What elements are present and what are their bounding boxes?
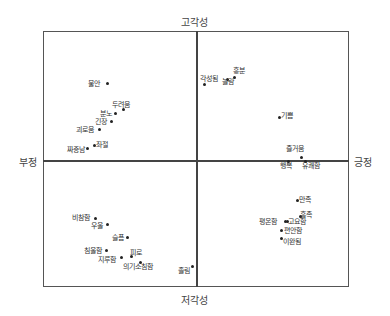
data-point-label: 긴장 [95, 118, 107, 126]
data-point-marker [98, 128, 101, 131]
data-point-label: 침울함 [84, 247, 102, 255]
data-point-label: 만족 [299, 196, 311, 204]
data-point-label: 편안함 [284, 227, 302, 235]
data-point-marker [105, 249, 108, 252]
data-point-label: 행복 [280, 162, 292, 170]
data-point-label: 졸림 [178, 267, 190, 275]
data-point-label: 의기소침함 [123, 263, 153, 271]
data-point-label: 고요함 [288, 218, 306, 226]
data-point-marker [114, 112, 117, 115]
data-point-marker [86, 147, 89, 150]
data-point-label: 좌절 [96, 141, 108, 149]
data-point-marker [106, 223, 109, 226]
data-point-label: 지루함 [98, 256, 116, 264]
data-point-label: 두려움 [112, 101, 130, 109]
data-point-marker [120, 256, 123, 259]
data-point-marker [106, 82, 109, 85]
data-point-label: 흥분 [233, 67, 245, 75]
data-point-marker [94, 217, 97, 220]
data-point-label: 이완됨 [283, 238, 301, 246]
data-point-label: 괴로움 [76, 126, 94, 134]
data-point-marker [300, 156, 303, 159]
axis-label-low-arousal: 저각성 [181, 292, 208, 307]
data-point-marker [126, 236, 129, 239]
data-point-marker [110, 120, 113, 123]
data-point-marker [191, 265, 194, 268]
arousal-axis [196, 31, 198, 287]
data-point-label: 피로 [130, 249, 142, 257]
data-point-label: 비참함 [72, 214, 90, 222]
data-point-label: 기쁨 [281, 112, 293, 120]
data-point-label: 평온함 [259, 218, 277, 226]
data-point-label: 불안 [88, 80, 100, 88]
data-point-label: 슬픔 [112, 234, 124, 242]
data-point-label: 짜증남 [67, 146, 85, 154]
data-point-label: 분노 [100, 110, 112, 118]
data-point-label: 유쾌함 [302, 162, 320, 170]
data-point-label: 놀람 [222, 78, 234, 86]
data-point-marker [280, 229, 283, 232]
axis-label-high-arousal: 고각성 [181, 14, 208, 29]
data-point-label: 즐거움 [286, 145, 304, 153]
data-point-label: 우울 [91, 222, 103, 230]
axis-label-negative: 부정 [19, 154, 37, 169]
axis-label-positive: 긍정 [354, 154, 372, 169]
data-point-label: 각성됨 [200, 75, 218, 83]
